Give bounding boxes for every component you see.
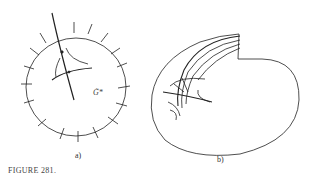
panel-b-diagram	[151, 34, 299, 155]
panel-a-label: a)	[75, 151, 81, 160]
panel-b-label: b)	[217, 155, 224, 164]
g-star-annotation: G̃*	[93, 88, 103, 97]
figure-caption: FIGURE 281.	[8, 166, 56, 175]
panel-a-diagram	[21, 13, 130, 142]
figure-drawing	[0, 0, 314, 185]
